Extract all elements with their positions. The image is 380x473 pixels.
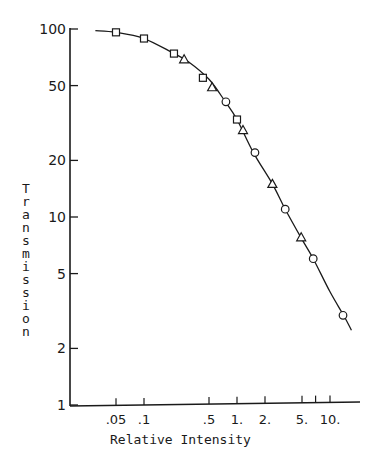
x-tick-label: 1.: [231, 412, 243, 427]
square-marker: [199, 74, 206, 81]
circle-marker: [222, 98, 230, 106]
x-tick-label: .05: [106, 412, 127, 427]
y-tick-label: 50: [48, 78, 66, 94]
triangle-marker: [297, 233, 306, 241]
circle-marker: [309, 255, 317, 263]
triangle-marker: [268, 179, 277, 187]
x-axis-title: Relative Intensity: [110, 432, 251, 447]
triangle-marker: [180, 55, 189, 63]
x-tick-label: 5.: [296, 412, 308, 427]
fit-curve: [95, 31, 351, 331]
data-markers: [113, 29, 347, 319]
y-tick-label: 1: [57, 397, 66, 413]
circle-marker: [281, 205, 289, 213]
square-marker: [141, 35, 148, 42]
y-tick-label: 10: [48, 209, 66, 225]
chart: 100502010521 .05.1.51.2.5.10. Relative I…: [0, 0, 380, 473]
circle-marker: [339, 312, 347, 320]
y-axis-title: Transmission: [18, 182, 34, 338]
x-tick-label: .5: [203, 412, 215, 427]
y-tick-label: 100: [39, 21, 66, 37]
square-marker: [234, 116, 241, 123]
y-axis: 100502010521: [39, 21, 78, 413]
x-axis: .05.1.51.2.5.10.: [70, 395, 360, 427]
y-tick-label: 5: [57, 266, 66, 282]
y-tick-label: 2: [57, 340, 66, 356]
y-tick-label: 20: [48, 152, 66, 168]
x-tick-label: 10.: [320, 412, 341, 427]
circle-marker: [251, 149, 259, 157]
triangle-marker: [238, 126, 247, 134]
x-tick-label: .1: [138, 412, 150, 427]
square-marker: [170, 50, 177, 57]
y-title-letter: n: [18, 325, 34, 338]
x-tick-label: 2.: [259, 412, 271, 427]
square-marker: [113, 29, 120, 36]
